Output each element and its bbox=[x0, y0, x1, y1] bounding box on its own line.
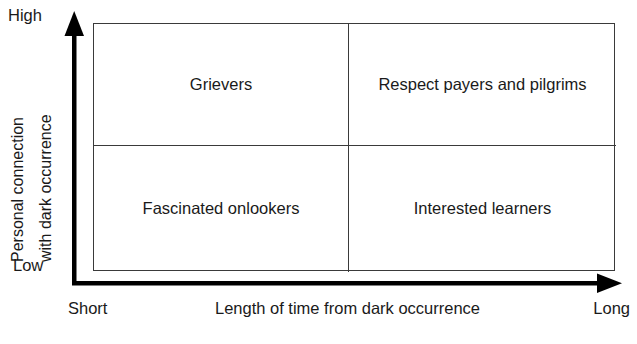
quadrant-bottom-right: Interested learners bbox=[349, 146, 616, 272]
quadrant-bottom-left: Fascinated onlookers bbox=[94, 146, 349, 272]
quadrant-top-left-label: Grievers bbox=[190, 74, 252, 96]
x-axis-end-label: Long bbox=[593, 299, 630, 318]
quadrant-top-right-label: Respect payers and pilgrims bbox=[378, 74, 586, 96]
y-axis-high-label: High bbox=[8, 6, 42, 25]
dark-tourism-typology-figure: Grievers Respect payers and pilgrims Fas… bbox=[0, 0, 637, 344]
x-axis-label-row: Short Length of time from dark occurrenc… bbox=[58, 299, 637, 323]
quadrant-bottom-right-label: Interested learners bbox=[414, 198, 552, 220]
quadrant-matrix: Grievers Respect payers and pilgrims Fas… bbox=[93, 23, 615, 271]
quadrant-bottom-left-label: Fascinated onlookers bbox=[143, 198, 300, 220]
y-axis-arrow bbox=[65, 11, 85, 282]
x-axis-title: Length of time from dark occurrence bbox=[58, 299, 637, 318]
y-axis-title-line-2: with dark occurrence bbox=[37, 114, 55, 262]
quadrant-top-left: Grievers bbox=[94, 24, 349, 146]
y-axis-title-line-1: Personal connection bbox=[9, 117, 27, 262]
x-axis-arrow bbox=[72, 274, 622, 294]
quadrant-top-right: Respect payers and pilgrims bbox=[349, 24, 616, 146]
